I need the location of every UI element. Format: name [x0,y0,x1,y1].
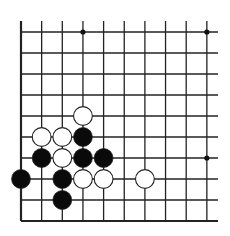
go-board[interactable] [0,0,230,236]
star-point-icon [80,29,85,34]
white-stone[interactable] [74,107,93,126]
white-stone[interactable] [136,170,155,189]
black-stone[interactable] [12,170,31,189]
white-stone[interactable] [53,128,72,147]
white-stone[interactable] [94,170,113,189]
white-stone[interactable] [53,149,72,168]
black-stone[interactable] [74,128,93,147]
black-stone[interactable] [53,170,72,189]
board-grid [21,21,218,221]
white-stone[interactable] [32,128,51,147]
black-stone[interactable] [53,191,72,210]
star-point-icon [204,29,209,34]
black-stone[interactable] [74,149,93,168]
black-stone[interactable] [94,149,113,168]
star-point-icon [204,155,209,160]
white-stone[interactable] [74,170,93,189]
black-stone[interactable] [32,149,51,168]
